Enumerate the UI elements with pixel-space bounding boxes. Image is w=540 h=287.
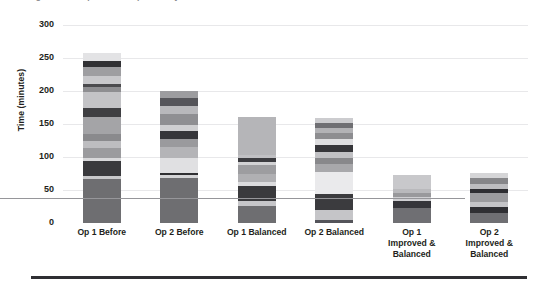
bar-segment[interactable] (83, 108, 121, 117)
x-axis-tick-label-line: Op 1 Balanced (214, 227, 300, 238)
x-axis-line (0, 198, 465, 199)
bar-segment[interactable] (393, 175, 431, 190)
bar-segment[interactable] (83, 76, 121, 85)
bar-stack[interactable] (470, 173, 508, 223)
x-axis-tick-label-line: Improved & (369, 238, 455, 249)
y-axis-tick-label: 200 (20, 85, 54, 95)
x-axis-tick-label-line: Op 2 (446, 227, 532, 238)
stacked-bar-chart: Time (minutes) 050100150200250300 Op 1 B… (0, 0, 540, 287)
bar-segment[interactable] (238, 117, 276, 155)
x-axis-tick-label-line: Op 1 (369, 227, 455, 238)
x-axis-tick-label-line: Balanced (446, 249, 532, 260)
gridline (63, 25, 528, 26)
bar-segment[interactable] (238, 206, 276, 223)
x-axis-tick-label: Op 1Improved &Balanced (369, 227, 455, 261)
gridline (63, 91, 528, 92)
bar-segment[interactable] (160, 139, 198, 148)
x-axis-tick-label: Op 1 Balanced (214, 227, 300, 238)
bar-segment[interactable] (238, 165, 276, 174)
bar-segment[interactable] (83, 117, 121, 134)
bar-segment[interactable] (83, 53, 121, 62)
bar-segment[interactable] (315, 194, 353, 210)
bar-segment[interactable] (83, 161, 121, 176)
bar-segment[interactable] (83, 67, 121, 76)
x-axis-tick-label: Op 2Improved &Balanced (446, 227, 532, 261)
bar-segment[interactable] (160, 147, 198, 158)
gridline (63, 190, 528, 191)
x-axis-tick-label-line: Op 2 Balanced (291, 227, 377, 238)
x-axis-tick-labels: Op 1 BeforeOp 2 BeforeOp 1 BalancedOp 2 … (63, 227, 528, 279)
bar-segment[interactable] (470, 193, 508, 202)
bar-segment[interactable] (160, 178, 198, 223)
bar-segment[interactable] (160, 91, 198, 98)
bar-stack[interactable] (315, 118, 353, 223)
x-axis-tick-label: Op 2 Balanced (291, 227, 377, 238)
bar-segment[interactable] (160, 98, 198, 106)
bar-segment[interactable] (393, 208, 431, 223)
x-axis-tick-label-line: Op 1 Before (59, 227, 145, 238)
x-axis-tick-label-line: Improved & (446, 238, 532, 249)
gridline (63, 124, 528, 125)
bar-segment[interactable] (238, 174, 276, 183)
bar-segment[interactable] (470, 213, 508, 223)
y-axis-tick-label: 50 (20, 184, 54, 194)
bar-segment[interactable] (315, 172, 353, 194)
bar-segment[interactable] (160, 106, 198, 114)
plot-area (63, 25, 528, 223)
bar-segment[interactable] (83, 141, 121, 148)
x-axis-tick-label-line: Op 2 Before (136, 227, 222, 238)
bar-segment[interactable] (160, 131, 198, 139)
bar-stack[interactable] (238, 117, 276, 223)
bar-segment[interactable] (83, 92, 121, 109)
gridline (63, 157, 528, 158)
y-axis-tick-label: 300 (20, 19, 54, 29)
bar-segment[interactable] (83, 148, 121, 158)
bar-segment[interactable] (315, 164, 353, 172)
x-axis-tick-label: Op 1 Before (59, 227, 145, 238)
y-axis-tick-label: 0 (20, 217, 54, 227)
bar-segment[interactable] (160, 114, 198, 125)
bar-segment[interactable] (315, 210, 353, 221)
bar-segment[interactable] (315, 220, 353, 223)
bottom-divider-rule (31, 276, 527, 279)
bar-stack[interactable] (160, 91, 198, 223)
bar-segment[interactable] (160, 158, 198, 173)
x-axis-tick-label: Op 2 Before (136, 227, 222, 238)
x-axis-tick-label-line: Balanced (369, 249, 455, 260)
plot-wrapper: Time (minutes) 050100150200250300 Op 1 B… (0, 0, 540, 287)
bar-segment[interactable] (83, 134, 121, 141)
y-axis-tick-label: 100 (20, 151, 54, 161)
bar-segment[interactable] (315, 152, 353, 159)
y-axis-tick-label: 250 (20, 52, 54, 62)
bar-segment[interactable] (315, 145, 353, 152)
bar-segment[interactable] (393, 201, 431, 208)
y-axis-tick-label: 150 (20, 118, 54, 128)
bar-segment[interactable] (83, 179, 121, 223)
gridline (63, 58, 528, 59)
